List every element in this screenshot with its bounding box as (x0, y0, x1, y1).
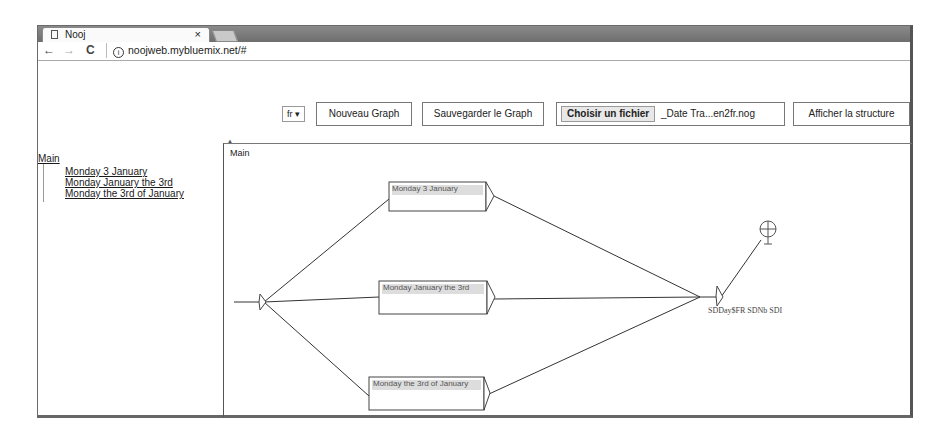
graph-node-label[interactable]: Monday 3 January (392, 184, 458, 193)
output-label: SDDay$FR SDNb SDI (708, 306, 782, 315)
reload-icon[interactable]: C (86, 43, 95, 57)
graph-node-label[interactable]: Monday the 3rd of January (373, 379, 468, 388)
toolbar: fr ▾ Nouveau Graph Sauvegarder le Graph … (38, 102, 910, 128)
terminal-node-icon (760, 221, 776, 244)
graph-node-label[interactable]: Monday January the 3rd (383, 283, 469, 292)
forward-icon[interactable]: → (63, 43, 75, 57)
show-structure-button[interactable]: Afficher la structure (793, 102, 910, 126)
graph-canvas[interactable]: Main (223, 143, 912, 417)
output-node-icon (716, 286, 723, 306)
tab-bar: Nooj × (38, 26, 910, 42)
browser-window: Nooj × ← → C inoojweb.mybluemix.net/# fr… (37, 25, 913, 418)
save-graph-button[interactable]: Sauvegarder le Graph (422, 102, 544, 126)
dropdown-arrow-icon: ▾ (295, 109, 300, 119)
tree-item[interactable]: Monday January the 3rd (65, 177, 215, 188)
language-value: fr (287, 109, 293, 119)
file-name: _Date Tra...en2fr.nog (661, 103, 755, 125)
file-input[interactable]: Choisir un fichier _Date Tra...en2fr.nog (556, 102, 785, 126)
close-tab-icon[interactable]: × (195, 28, 201, 40)
address-bar-row: ← → C inoojweb.mybluemix.net/# (38, 42, 910, 61)
start-node-icon (259, 294, 266, 310)
new-graph-button[interactable]: Nouveau Graph (316, 102, 412, 126)
new-tab-button[interactable] (212, 30, 238, 42)
page-icon (51, 30, 58, 39)
tab-title: Nooj (65, 29, 86, 40)
tree-item[interactable]: Monday 3 January (65, 166, 215, 177)
browser-tab[interactable]: Nooj × (42, 27, 210, 42)
language-select[interactable]: fr ▾ (282, 106, 305, 122)
tree-item[interactable]: Monday the 3rd of January (65, 188, 215, 199)
tree-connector (43, 164, 44, 202)
choose-file-button[interactable]: Choisir un fichier (561, 106, 655, 122)
tree-root-main[interactable]: Main (38, 153, 60, 164)
back-icon[interactable]: ← (43, 43, 55, 57)
url-text: noojweb.mybluemix.net/# (128, 44, 246, 56)
graph-svg (224, 144, 912, 417)
url-field[interactable]: inoojweb.mybluemix.net/# (106, 43, 906, 58)
info-icon[interactable]: i (113, 47, 124, 58)
structure-panel: Main Monday 3 January Monday January the… (38, 143, 223, 416)
